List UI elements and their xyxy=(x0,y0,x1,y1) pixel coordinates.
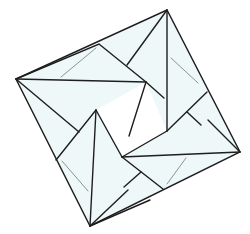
origami-diagram xyxy=(0,0,250,234)
origami-pinwheel-figure xyxy=(0,0,250,234)
